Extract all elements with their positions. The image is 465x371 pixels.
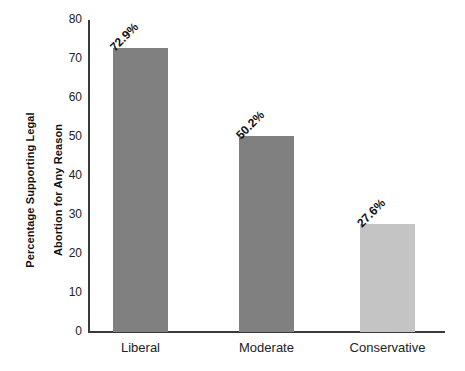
y-axis-tick-label: 20 <box>52 246 82 260</box>
bar-moderate[interactable] <box>239 136 294 332</box>
x-axis-label-conservative: Conservative <box>338 340 438 355</box>
y-axis-tick-label: 40 <box>52 168 82 182</box>
y-axis-line <box>88 20 90 333</box>
y-axis-tick-label: 30 <box>52 207 82 221</box>
y-axis-tick-label: 80 <box>52 12 82 26</box>
bar-conservative[interactable] <box>360 224 415 332</box>
y-axis-tick-label: 0 <box>52 324 82 338</box>
y-axis-tick-label: 70 <box>52 51 82 65</box>
y-axis-tick-label: 50 <box>52 129 82 143</box>
x-axis-label-liberal: Liberal <box>91 340 191 355</box>
bar-liberal[interactable] <box>113 48 168 332</box>
plot-area: 01020304050607080 72.9%50.2%27.6% Libera… <box>0 0 465 371</box>
y-axis-tick-label: 60 <box>52 90 82 104</box>
y-axis-tick-labels: 01020304050607080 <box>52 0 82 371</box>
x-axis-label-moderate: Moderate <box>217 340 317 355</box>
y-axis-tick-label: 10 <box>52 285 82 299</box>
bar-chart: Percentage Supporting Legal Abortion for… <box>0 0 465 371</box>
